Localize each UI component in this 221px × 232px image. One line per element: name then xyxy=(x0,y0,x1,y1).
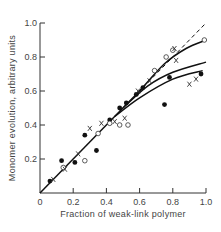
open-circle-point xyxy=(107,121,112,126)
cross-point xyxy=(123,116,127,121)
open-circle-point xyxy=(96,131,101,136)
y-axis-label: Monomer evolution, arbitrary units xyxy=(7,35,17,181)
cross-point xyxy=(88,126,92,131)
x-tick-label: 0.8 xyxy=(167,197,180,207)
fit-curve xyxy=(115,71,203,117)
cross-point xyxy=(187,82,191,87)
filled-circle-point xyxy=(124,101,129,106)
cross-point xyxy=(194,77,198,82)
x-tick-label: 0.6 xyxy=(133,197,146,207)
open-circle-point xyxy=(117,123,122,128)
filled-circle-point xyxy=(59,158,64,163)
open-circle-point xyxy=(83,158,88,163)
y-tick-label: 0.6 xyxy=(24,86,37,96)
y-tick-label: 0.8 xyxy=(24,52,37,62)
chart: 00.20.40.60.81.00.20.40.60.81.0 Fraction… xyxy=(0,0,221,232)
filled-circle-point xyxy=(72,160,77,165)
filled-circle-point xyxy=(117,106,122,111)
x-axis-label: Fraction of weak-link polymer xyxy=(60,209,186,219)
open-circle-point xyxy=(164,55,169,60)
x-tick-label: 1.0 xyxy=(200,197,213,207)
cross-point xyxy=(51,177,55,182)
filled-circle-point xyxy=(199,72,204,77)
x-tick-label: 0 xyxy=(37,197,42,207)
x-tick-label: 0.2 xyxy=(67,197,80,207)
cross-point xyxy=(174,58,178,63)
filled-circle-point xyxy=(162,102,167,107)
filled-circle-point xyxy=(141,85,146,90)
open-circle-point xyxy=(202,38,207,43)
x-tick-label: 0.4 xyxy=(100,197,113,207)
cross-point xyxy=(99,121,103,126)
y-tick-label: 1.0 xyxy=(24,18,37,28)
open-circle-point xyxy=(126,123,131,128)
filled-circle-point xyxy=(94,148,99,153)
y-tick-label: 0.4 xyxy=(24,120,37,130)
cross-point xyxy=(113,119,117,124)
open-circle-point xyxy=(152,68,157,73)
cross-point xyxy=(76,151,80,156)
filled-circle-point xyxy=(82,133,87,138)
filled-circle-point xyxy=(167,75,172,80)
y-tick-label: 0.2 xyxy=(24,154,37,164)
